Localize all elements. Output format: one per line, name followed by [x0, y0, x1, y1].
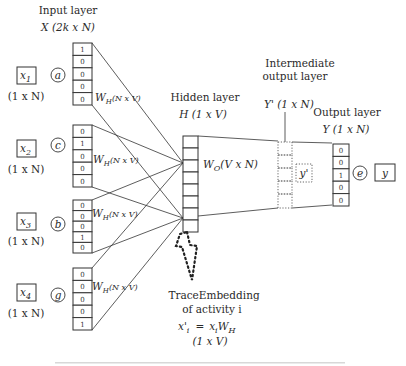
activity-label: b: [55, 218, 62, 230]
weight-label-wo: WO(V x N): [203, 158, 258, 173]
svg-text:1: 1: [339, 172, 343, 180]
weight-label-wh: WH(N x V): [92, 207, 138, 222]
input-group-2: x2 (1 x N) c 0 1 0 0 0 WH(N x V): [8, 125, 139, 187]
connection-line: [92, 218, 183, 330]
cutoff-caption: [55, 362, 345, 364]
hidden-layer-title: Hidden layer: [170, 91, 240, 103]
wo-bottom-edge: [198, 208, 278, 216]
svg-text:0: 0: [80, 165, 84, 173]
weight-label-wh: WH(N x V): [92, 280, 138, 295]
svg-text:0: 0: [339, 184, 343, 192]
svg-text:0: 0: [80, 153, 84, 161]
input-group-1: x1 (1 x N) a 1 0 0 0 0 WH(N x V): [8, 43, 141, 106]
svg-text:0: 0: [80, 83, 84, 91]
svg-text:0: 0: [339, 159, 343, 167]
activity-label: c: [55, 139, 61, 151]
one-hot-vector: 0 1 0 0 0: [73, 125, 92, 187]
weight-label-wh: WH(N x V): [93, 153, 139, 168]
output-activity-label: e: [357, 167, 363, 179]
embedding-arrow-icon: [176, 232, 197, 280]
input-dims: (1 x N): [8, 307, 45, 319]
hidden-layer-shape: H (1 x V): [178, 108, 227, 120]
output-layer-shape: Y (1 x N): [323, 123, 370, 135]
svg-text:0: 0: [80, 202, 84, 210]
svg-text:1: 1: [80, 46, 84, 54]
svg-text:0: 0: [80, 128, 84, 136]
svg-text:1: 1: [80, 140, 84, 148]
input-dims: (1 x N): [8, 163, 45, 175]
output-top-edge: [292, 142, 332, 143]
svg-text:0: 0: [339, 197, 343, 205]
svg-text:0: 0: [80, 244, 84, 252]
intermediate-title-line2: output layer: [262, 70, 328, 82]
svg-text:0: 0: [80, 223, 84, 231]
output-var: y: [381, 167, 389, 179]
svg-text:0: 0: [80, 271, 84, 279]
svg-text:0: 0: [80, 296, 84, 304]
input-group-3: x3 (1 x N) b 0 0 0 1 0 WH(N x V): [8, 200, 138, 253]
hidden-layer-vector: [183, 136, 198, 232]
weight-label-wh: WH(N x V): [95, 91, 141, 106]
embedding-formula: x'i=xiWH: [178, 320, 236, 335]
input-dims: (1 x N): [8, 90, 45, 102]
svg-text:0: 0: [80, 96, 84, 104]
activity-label: a: [55, 69, 61, 81]
output-layer-title: Output layer: [313, 106, 381, 118]
intermediate-vector: [278, 142, 292, 208]
svg-text:0: 0: [80, 308, 84, 316]
connection-line: [92, 163, 183, 200]
intermediate-shape: Y' (1 x N): [264, 98, 314, 110]
embedding-title: TraceEmbedding: [168, 289, 259, 301]
svg-text:0: 0: [80, 178, 84, 186]
svg-text:0: 0: [80, 58, 84, 66]
word2vec-diagram: Input layer X (2k x N) x1 (1 x N) a 1 0 …: [0, 0, 406, 366]
intermediate-title-line1: Intermediate: [265, 57, 334, 69]
output-vector: 0 0 1 0 0: [333, 144, 349, 206]
input-dims: (1 x N): [8, 235, 45, 247]
svg-text:0: 0: [80, 283, 84, 291]
svg-text:1: 1: [80, 321, 84, 329]
svg-text:0: 0: [80, 71, 84, 79]
connection-line: [92, 218, 183, 253]
input-layer-title: Input layer: [39, 4, 99, 16]
one-hot-vector: 1 0 0 0 0: [73, 43, 92, 105]
embedding-dims: (1 x V): [192, 335, 227, 347]
input-group-4: x4 (1 x N) g 0 0 0 0 1 WH(N x V): [8, 268, 138, 330]
input-layer-shape: X (2k x N): [40, 21, 95, 33]
svg-text:1: 1: [80, 234, 84, 242]
svg-text:0: 0: [80, 213, 84, 221]
intermediate-value: y': [299, 167, 309, 179]
wo-top-edge: [198, 136, 278, 141]
output-bottom-edge: [292, 205, 332, 208]
svg-text:0: 0: [339, 147, 343, 155]
activity-label: g: [55, 289, 62, 301]
embedding-subtitle: of activity i: [182, 303, 242, 315]
one-hot-vector: 0 0 0 1 0: [73, 200, 92, 253]
one-hot-vector: 0 0 0 0 1: [73, 268, 92, 330]
